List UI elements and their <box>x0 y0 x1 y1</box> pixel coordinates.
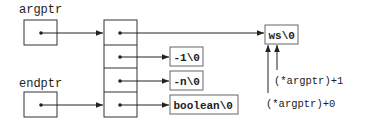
svg-text:-n\0: -n\0 <box>174 76 200 88</box>
string-neg1: -1\0 <box>170 47 203 66</box>
svg-text:ws\0: ws\0 <box>269 30 295 42</box>
svg-text:-1\0: -1\0 <box>174 52 200 64</box>
annotation-plus1: (*argptr)+1 <box>274 75 343 87</box>
svg-text:boolean\0: boolean\0 <box>174 100 233 112</box>
string-boolean: boolean\0 <box>170 95 238 114</box>
argptr-label: argptr <box>19 3 62 17</box>
pointer-diagram: argptr endptr ws\0 -1\0 -n\0 boolean\0 <box>0 0 367 126</box>
endptr-label: endptr <box>19 77 62 91</box>
string-negn: -n\0 <box>170 71 203 90</box>
pointer-array <box>104 20 137 117</box>
string-ws: ws\0 <box>265 25 298 44</box>
annotation-plus0: (*argptr)+0 <box>266 98 335 110</box>
